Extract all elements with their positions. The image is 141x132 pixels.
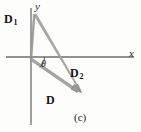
- vector-label-D1: D1: [4, 13, 18, 27]
- x-axis-label: x: [129, 48, 134, 59]
- vector-label-D: D: [46, 94, 55, 106]
- vector-diagram-figure: D1 D2 D x y θ (c): [0, 0, 141, 132]
- figure-caption: (c): [74, 112, 86, 123]
- y-axis-label: y: [35, 1, 40, 12]
- angle-label-theta: θ: [41, 59, 46, 69]
- vector-label-D2: D2: [70, 67, 84, 81]
